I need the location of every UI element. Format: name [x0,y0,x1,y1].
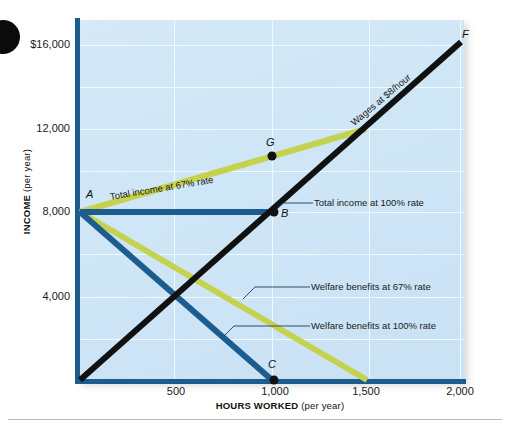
line-welfare-67 [80,212,367,380]
point-label-F: F [462,28,469,40]
point-dot-B [270,208,279,217]
point-label-A: A [86,188,93,200]
figure-container: $16,000 12,000 8,000 4,000 500 1,000 1,5… [0,0,510,434]
footer-rule [8,419,502,420]
chart-lines [0,0,510,434]
series-label-welfare-67: Welfare benefits at 67% rate [311,281,431,292]
point-dot-G [268,152,277,161]
series-label-total-income-100: Total income at 100% rate [314,197,424,208]
point-label-G: G [266,136,275,148]
point-dot-C [270,376,279,385]
point-label-B: B [281,207,288,219]
leader-welfare-67 [243,287,310,299]
point-label-C: C [268,358,276,370]
series-label-welfare-100: Welfare benefits at 100% rate [311,320,436,331]
